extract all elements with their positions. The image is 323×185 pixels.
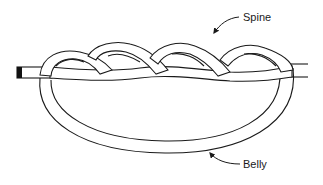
belly-callout: Belly: [210, 153, 267, 170]
rope-end-cap: [17, 67, 22, 78]
belly-label: Belly: [243, 158, 267, 170]
spine-label: Spine: [243, 11, 271, 23]
knot-diagram: Spine Belly: [0, 0, 323, 185]
twisted-spine: [40, 43, 293, 82]
spine-callout: Spine: [214, 11, 271, 33]
